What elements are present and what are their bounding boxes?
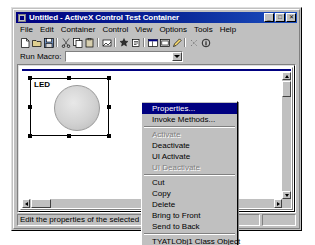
context-menu-separator-2 <box>144 174 235 176</box>
status-pane-4 <box>262 214 296 226</box>
context-menu: Properties... Invoke Methods... Activate… <box>141 101 238 245</box>
context-menu-item-invoke-methods[interactable]: Invoke Methods... <box>142 114 237 125</box>
document-title-bar[interactable] <box>22 69 291 71</box>
about-icon[interactable] <box>200 37 211 48</box>
menu-view[interactable]: View <box>132 25 155 35</box>
led-control[interactable]: LED <box>30 78 109 136</box>
context-menu-item-copy[interactable]: Copy <box>142 188 237 199</box>
context-menu-item-send-to-back[interactable]: Send to Back <box>142 221 237 232</box>
close-button[interactable]: ✕ <box>286 13 296 22</box>
toolbar-separator-3 <box>113 37 117 48</box>
vertical-scrollbar[interactable] <box>282 72 291 199</box>
horizontal-scroll-thumb[interactable] <box>31 199 51 208</box>
run-macro-input[interactable] <box>66 52 172 61</box>
resize-handle-n[interactable] <box>67 76 71 80</box>
resize-handle-e[interactable] <box>107 105 111 109</box>
cut-icon[interactable] <box>60 37 71 48</box>
toolbar-separator-1 <box>55 37 59 48</box>
context-menu-item-ui-deactivate: UI Deactivate <box>142 162 237 173</box>
context-menu-item-ui-activate[interactable]: UI Activate <box>142 151 237 162</box>
resize-handle-s[interactable] <box>67 134 71 138</box>
context-menu-separator-3 <box>144 233 235 235</box>
minimize-icon: _ <box>265 15 273 22</box>
toolbar-separator-2 <box>96 37 100 48</box>
macro-bar: Run Macro: <box>17 50 296 63</box>
vertical-scroll-thumb[interactable] <box>282 81 291 97</box>
menu-file[interactable]: File <box>17 25 36 35</box>
scroll-up-button[interactable] <box>282 72 291 80</box>
close-icon: ✕ <box>287 14 295 21</box>
minimize-button[interactable]: _ <box>264 13 274 22</box>
test-icon[interactable] <box>188 37 199 48</box>
title-bar[interactable]: Untitled - ActiveX Control Test Containe… <box>16 12 297 23</box>
new-control-icon[interactable] <box>118 37 129 48</box>
scroll-left-button[interactable] <box>22 199 30 208</box>
open-icon[interactable] <box>31 37 42 48</box>
resize-handle-nw[interactable] <box>28 76 32 80</box>
resize-handle-se[interactable] <box>107 134 111 138</box>
context-menu-separator-1 <box>144 126 235 128</box>
context-menu-item-cut[interactable]: Cut <box>142 177 237 188</box>
chevron-right-icon <box>277 202 280 206</box>
run-macro-label: Run Macro: <box>20 52 61 62</box>
edit-icon[interactable] <box>171 37 182 48</box>
properties-icon[interactable] <box>147 37 158 48</box>
maximize-icon: □ <box>276 14 284 21</box>
status-message: Edit the properties of the selected cont… <box>17 214 142 226</box>
paste-icon[interactable] <box>84 37 95 48</box>
insert-control-icon[interactable] <box>101 37 112 48</box>
chevron-down-icon[interactable] <box>172 52 182 61</box>
led-label: LED <box>34 80 50 90</box>
toolbar-separator-4 <box>142 37 146 48</box>
led-indicator-circle[interactable] <box>54 85 100 131</box>
menu-help[interactable]: Help <box>217 25 239 35</box>
new-icon[interactable] <box>19 37 30 48</box>
save-icon[interactable] <box>43 37 54 48</box>
menu-control[interactable]: Control <box>99 25 131 35</box>
app-icon <box>18 14 26 22</box>
invoke-methods-icon[interactable] <box>130 37 141 48</box>
menu-bar: File Edit Container Control View Options… <box>17 24 296 35</box>
window-buttons: _ □ ✕ <box>264 13 296 22</box>
chevron-down-icon <box>285 194 289 197</box>
scroll-down-button[interactable] <box>282 191 291 199</box>
menu-options[interactable]: Options <box>156 25 190 35</box>
copy-icon[interactable] <box>72 37 83 48</box>
resize-handle-sw[interactable] <box>28 134 32 138</box>
context-menu-item-properties[interactable]: Properties... <box>142 103 237 114</box>
menu-edit[interactable]: Edit <box>37 25 57 35</box>
resize-handle-w[interactable] <box>28 105 32 109</box>
toolbar <box>17 36 296 49</box>
resize-handle-ne[interactable] <box>107 76 111 80</box>
toolbar-separator-5 <box>183 37 187 48</box>
screenshot-root: Untitled - ActiveX Control Test Containe… <box>0 0 315 245</box>
context-menu-item-delete[interactable]: Delete <box>142 199 237 210</box>
menu-tools[interactable]: Tools <box>191 25 216 35</box>
scrollbar-corner <box>282 199 291 208</box>
maximize-button[interactable]: □ <box>275 13 285 22</box>
window-title: Untitled - ActiveX Control Test Containe… <box>29 13 264 23</box>
run-macro-combo[interactable] <box>65 51 183 62</box>
scroll-right-button[interactable] <box>274 199 282 208</box>
context-menu-item-deactivate[interactable]: Deactivate <box>142 140 237 151</box>
context-menu-item-class-object[interactable]: TYATLObj1 Class Object <box>142 236 237 245</box>
chevron-left-icon <box>25 202 28 206</box>
menu-container[interactable]: Container <box>58 25 99 35</box>
events-log-icon[interactable] <box>159 37 170 48</box>
context-menu-item-activate: Activate <box>142 129 237 140</box>
chevron-up-icon <box>285 75 289 78</box>
context-menu-item-bring-to-front[interactable]: Bring to Front <box>142 210 237 221</box>
